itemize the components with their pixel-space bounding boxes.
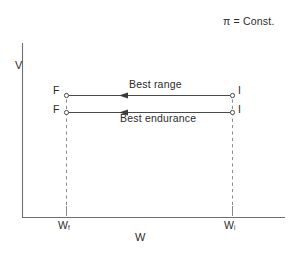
- x-tick-label-wi-sub: i: [234, 224, 235, 231]
- x-tick-label-wf-base: W: [58, 219, 68, 231]
- point-label-f-best-endurance: F: [53, 104, 59, 115]
- x-tick-group: [67, 206, 233, 216]
- x-tick-label-wi-base: W: [224, 219, 234, 231]
- curve-label-best-endurance: Best endurance: [120, 113, 196, 124]
- x-tick-label-wf: Wf: [58, 220, 70, 232]
- annotation-pi-const: π = Const.: [223, 16, 275, 27]
- best-endurance-marker-f: [64, 110, 68, 114]
- diagram-canvas: [0, 0, 292, 256]
- x-tick-label-wi: Wi: [224, 220, 235, 232]
- flight-velocity-weight-diagram: π = Const. V W F F I I Best range Best e…: [0, 0, 292, 256]
- x-tick-label-wf-sub: f: [68, 224, 70, 231]
- best-range-arrowhead: [119, 92, 128, 98]
- best-range-marker-f: [64, 93, 68, 97]
- curve-label-best-range: Best range: [129, 79, 182, 90]
- axes-group: [22, 43, 285, 218]
- point-label-f-best-range: F: [53, 85, 59, 96]
- best-range-marker-i: [230, 93, 234, 97]
- y-axis-label: V: [15, 60, 22, 71]
- x-axis-label: W: [135, 232, 145, 243]
- point-label-i-best-range: I: [238, 85, 241, 96]
- best-endurance-marker-i: [230, 110, 234, 114]
- point-label-i-best-endurance: I: [238, 104, 241, 115]
